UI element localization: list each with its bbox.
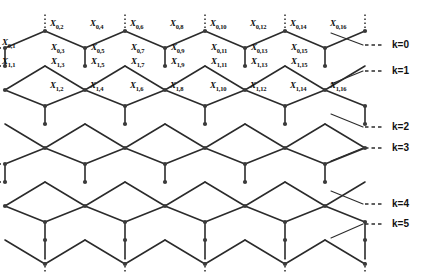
k-leader-line-2 [331, 114, 363, 127]
row-index-label-k-2: k=2 [392, 122, 409, 132]
slant-bond [125, 148, 165, 164]
hexagonal-lattice-figure: X0,1X1,1X0,2X0,4X0,6X0,8X0,10X0,12X0,14X… [0, 0, 429, 279]
row-index-label-k-0: k=0 [392, 40, 409, 50]
lattice-vertex [123, 29, 127, 33]
lattice-vertex [243, 162, 247, 166]
vertex-label-x-1-14: X1,14 [290, 81, 306, 92]
slant-bond [285, 124, 325, 148]
lattice-vertex [323, 64, 327, 68]
lattice-vertex [323, 204, 327, 208]
slant-bond [5, 66, 45, 90]
slant-bond [5, 182, 45, 206]
slant-bond [285, 206, 325, 222]
vertex-label-x-0-4: X0,4 [90, 19, 103, 30]
lattice-vertex [203, 262, 207, 266]
vertex-label-x-0-11: X0,11 [211, 43, 227, 54]
slant-bond [125, 90, 165, 106]
slant-bond [325, 124, 365, 148]
vertex-label-subscript: 0,16 [336, 23, 347, 30]
vertex-label-x-1-13: X1,13 [251, 57, 267, 68]
vertex-label-x-0-14: X0,14 [290, 19, 306, 30]
vertex-label-x-1-2: X1,2 [50, 81, 63, 92]
lattice-vertex [243, 180, 247, 184]
slant-bond [205, 124, 245, 148]
vertex-label-x-1-8: X1,8 [170, 81, 183, 92]
k-label-leader-dashes [365, 45, 384, 224]
vertex-label-subscript: 1,9 [177, 61, 185, 68]
slant-bond [5, 124, 45, 148]
row-index-label-k-1: k=1 [392, 66, 409, 76]
slant-bond [5, 240, 45, 264]
vertex-label-subscript: 1,10 [216, 85, 227, 92]
slant-bond [245, 182, 285, 206]
lattice-vertex [163, 204, 167, 208]
vertex-label-subscript: 0,8 [176, 23, 184, 30]
lattice-vertex [363, 238, 367, 242]
lattice-vertex [123, 122, 127, 126]
slant-bond [205, 240, 245, 264]
vertex-label-x-1-7: X1,7 [131, 57, 144, 68]
k-leader-line-3 [331, 148, 363, 161]
vertex-label-x-1-6: X1,6 [130, 81, 143, 92]
lattice-vertex [43, 122, 47, 126]
lattice-vertex [43, 238, 47, 242]
vertex-label-subscript: 1,5 [97, 61, 105, 68]
vertex-label-x-1-4: X1,4 [90, 81, 103, 92]
slant-bond [85, 206, 125, 222]
slant-bond [5, 90, 45, 106]
k-label-leader-lines [331, 33, 363, 238]
lattice-vertex [203, 238, 207, 242]
vertex-label-subscript: 0,13 [257, 47, 268, 54]
lattice-vertex [283, 238, 287, 242]
vertex-label-x-0-15: X0,15 [291, 43, 307, 54]
slant-bond [125, 124, 165, 148]
lattice-vertex [83, 204, 87, 208]
lattice-vertex [123, 146, 127, 150]
slant-bond [45, 206, 85, 222]
slant-bond [45, 182, 85, 206]
vertex-label-x-0-12: X0,12 [250, 19, 266, 30]
vertex-label-subscript: 0,9 [177, 47, 185, 54]
vertex-label-subscript: 1,4 [96, 85, 104, 92]
vertex-label-subscript: 0,6 [136, 23, 144, 30]
lattice-vertex [323, 180, 327, 184]
vertex-label-x-0-1: X0,1 [2, 38, 15, 49]
lattice-boundary-dashes [0, 48, 1, 182]
lattice-vertex [43, 104, 47, 108]
lattice-vertex [163, 46, 167, 50]
slant-bond [285, 240, 325, 264]
lattice-vertex [363, 220, 367, 224]
lattice-vertex [123, 220, 127, 224]
vertex-label-x-1-15: X1,15 [291, 57, 307, 68]
slant-bond [205, 182, 245, 206]
row-index-label-k-5: k=5 [392, 219, 409, 229]
lattice-vertex [243, 204, 247, 208]
lattice-vertex [83, 46, 87, 50]
vertex-label-x-1-9: X1,9 [171, 57, 184, 68]
vertex-label-subscript: 1,2 [56, 85, 64, 92]
slant-bond [325, 148, 365, 164]
lattice-vertex [243, 88, 247, 92]
vertex-label-subscript: 0,10 [216, 23, 227, 30]
lattice-vertex [323, 162, 327, 166]
slant-bond [45, 240, 85, 264]
lattice-vertex [3, 162, 7, 166]
slant-bond [45, 90, 85, 106]
vertex-label-x-0-13: X0,13 [251, 43, 267, 54]
slant-bond [5, 206, 45, 222]
slant-bond [285, 182, 325, 206]
slant-bond [85, 182, 125, 206]
slant-bond [165, 124, 205, 148]
lattice-vertex [203, 220, 207, 224]
vertex-label-subscript: 0,12 [256, 23, 267, 30]
slant-bond [245, 206, 285, 222]
vertex-label-subscript: 1,12 [256, 85, 267, 92]
lattice-vertex [363, 104, 367, 108]
lattice-vertex [283, 29, 287, 33]
vertex-label-subscript: 0,11 [217, 47, 227, 54]
slant-bond [165, 148, 205, 164]
slant-bond [245, 240, 285, 264]
lattice-vertex [163, 162, 167, 166]
vertex-label-x-1-10: X1,10 [210, 81, 226, 92]
vertex-label-subscript: 0,3 [57, 47, 65, 54]
